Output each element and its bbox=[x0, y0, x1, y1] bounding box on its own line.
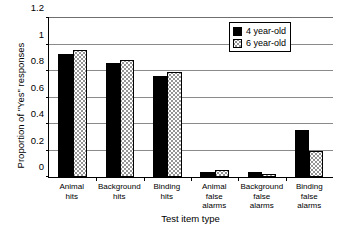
x-axis-title: Test item type bbox=[48, 213, 333, 224]
bar bbox=[295, 130, 309, 177]
x-category-label: Binding hits bbox=[143, 182, 191, 211]
x-category-label: Binding false alarms bbox=[286, 182, 334, 211]
legend-swatch-icon-4-year-old bbox=[233, 27, 242, 36]
y-tick-label: 1 bbox=[39, 28, 44, 39]
bar-group bbox=[49, 18, 96, 177]
bar bbox=[120, 60, 134, 177]
legend-swatch-icon-6-year-old bbox=[233, 39, 242, 48]
bar bbox=[106, 63, 120, 177]
x-category-label: Background hits bbox=[96, 182, 144, 211]
bar bbox=[200, 172, 214, 177]
legend: 4 year-old 6 year-old bbox=[229, 22, 291, 52]
y-tick-label: 0.2 bbox=[31, 134, 44, 145]
x-category-label: Animal hits bbox=[48, 182, 96, 211]
bar bbox=[58, 54, 72, 177]
y-tick-label: 0 bbox=[39, 161, 44, 172]
bar-group bbox=[144, 18, 191, 177]
bar bbox=[153, 76, 167, 177]
legend-item-4-year-old: 4 year-old bbox=[233, 25, 286, 37]
bar bbox=[167, 72, 181, 177]
bar bbox=[215, 170, 229, 177]
x-tick-mark bbox=[96, 177, 97, 181]
x-tick-mark bbox=[144, 177, 145, 181]
x-category-label: Animal false alarms bbox=[191, 182, 239, 211]
legend-item-6-year-old: 6 year-old bbox=[233, 37, 286, 49]
y-tick-label: 0.8 bbox=[31, 55, 44, 66]
y-tick-label: 0.6 bbox=[31, 81, 44, 92]
x-tick-mark bbox=[191, 177, 192, 181]
bar-group bbox=[286, 18, 333, 177]
y-axis-title: Proportion of "Yes" responses bbox=[15, 26, 26, 186]
bar bbox=[248, 172, 262, 177]
bar bbox=[262, 174, 276, 177]
y-tick-label: 1.2 bbox=[31, 2, 44, 13]
bar-chart: Proportion of "Yes" responses 00.20.40.6… bbox=[0, 0, 346, 236]
x-tick-mark bbox=[286, 177, 287, 181]
x-axis-category-labels: Animal hitsBackground hitsBinding hitsAn… bbox=[48, 182, 333, 211]
bar bbox=[73, 50, 87, 177]
bar bbox=[309, 151, 323, 177]
legend-label-6-year-old: 6 year-old bbox=[246, 38, 286, 48]
bar-group bbox=[96, 18, 143, 177]
y-tick-label: 0.4 bbox=[31, 108, 44, 119]
x-category-label: Background false alarms bbox=[238, 182, 286, 211]
x-tick-mark bbox=[238, 177, 239, 181]
legend-label-4-year-old: 4 year-old bbox=[246, 26, 286, 36]
